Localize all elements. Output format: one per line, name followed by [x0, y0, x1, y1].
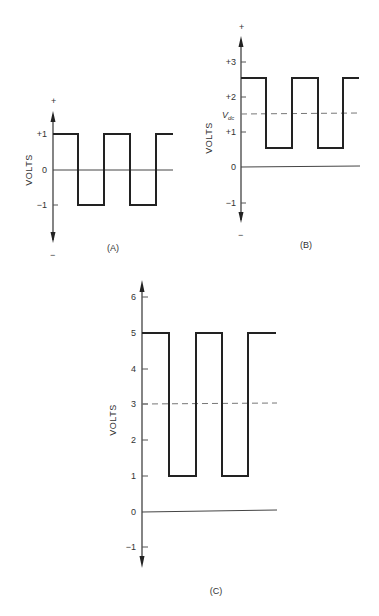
tick-label: +3: [226, 57, 236, 67]
arrow-down-icon: [239, 212, 244, 223]
figure-canvas: + − +1 0 −1 VOLTS (A) + − +3 +2 +1 0 −1 …: [0, 0, 379, 616]
tick-label: +2: [226, 92, 236, 102]
tick-label: 5: [131, 328, 136, 338]
panel-a: + − +1 0 −1 VOLTS (A): [24, 96, 173, 260]
square-wave: [142, 333, 276, 476]
panel-b: + − +3 +2 +1 0 −1 Vdc VOLTS (B): [204, 22, 360, 250]
y-axis-label: VOLTS: [204, 122, 214, 153]
arrow-down-icon: [140, 556, 145, 568]
tick-label: 4: [131, 364, 136, 374]
vdc-label: Vdc: [222, 110, 234, 121]
bottom-sign: −: [50, 250, 55, 260]
tick-label: 0: [131, 507, 136, 517]
bottom-sign: −: [238, 230, 243, 240]
caption: (B): [300, 240, 312, 250]
tick-label: 0: [42, 165, 47, 175]
caption: (C): [210, 586, 223, 596]
caption: (A): [107, 243, 119, 253]
y-axis-label: VOLTS: [108, 404, 118, 435]
tick-label: +1: [37, 129, 47, 139]
tick-label: 0: [231, 162, 236, 172]
tick-label: 3: [131, 399, 136, 409]
panel-c: 6 5 4 3 2 1 0 −1 VOLTS (C): [108, 280, 277, 596]
tick-label: −1: [37, 200, 47, 210]
top-sign: +: [239, 22, 244, 32]
arrow-up-icon: [51, 111, 56, 122]
tick-label: −1: [226, 198, 236, 208]
arrow-down-icon: [51, 232, 56, 243]
tick-label: 1: [131, 471, 136, 481]
tick-label: +1: [226, 127, 236, 137]
zero-line: [142, 510, 277, 512]
arrow-up-icon: [140, 280, 145, 292]
arrow-up-icon: [239, 36, 244, 47]
average-line: [142, 403, 277, 404]
y-axis-label: VOLTS: [24, 154, 34, 185]
tick-label: −1: [126, 542, 136, 552]
top-sign: +: [51, 96, 56, 106]
zero-line: [241, 166, 360, 167]
tick-label: 6: [131, 292, 136, 302]
tick-label: 2: [131, 435, 136, 445]
